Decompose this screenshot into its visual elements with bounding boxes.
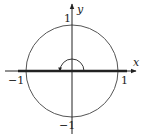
- tick-x-neg: −1: [8, 74, 24, 87]
- tick-y-neg: −1: [59, 119, 75, 132]
- y-axis-label: y: [76, 3, 84, 16]
- x-axis-label: x: [133, 56, 140, 69]
- tick-y-pos: 1: [64, 12, 71, 25]
- tick-x-pos: 1: [121, 74, 128, 87]
- unit-circle-diagram: y x 1 −1 −1 1: [0, 0, 143, 139]
